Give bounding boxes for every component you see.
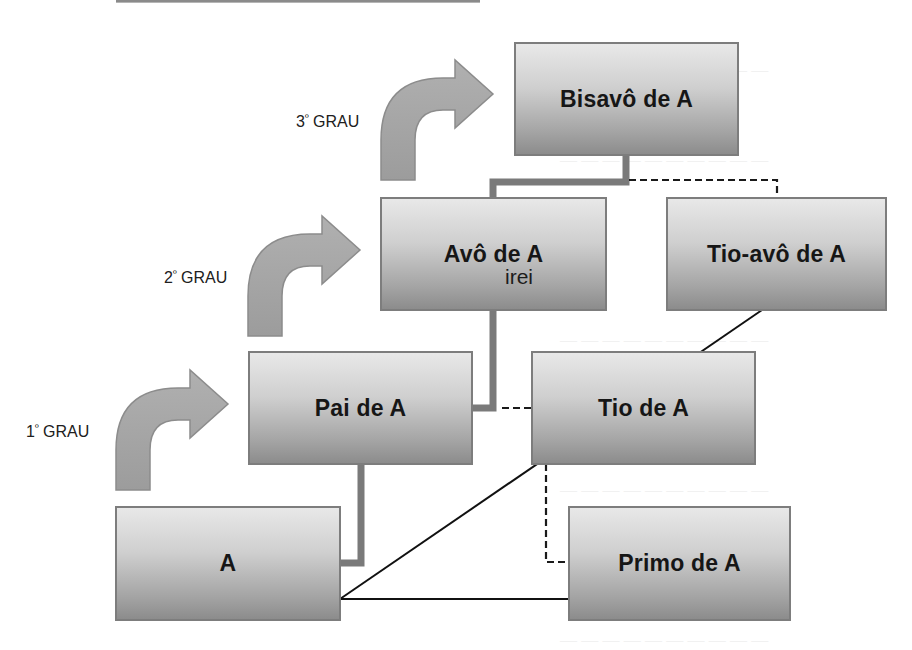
degree-number: 2 <box>164 269 173 286</box>
degree-word: GRAU <box>43 423 89 440</box>
node-pai: Pai de A <box>248 351 473 465</box>
node-label: Pai de A <box>315 395 407 422</box>
degree-ordinal: º <box>305 112 309 123</box>
degree-word: GRAU <box>313 113 359 130</box>
node-a: A <box>115 506 341 621</box>
arrow-2-grau-icon <box>248 216 360 336</box>
degree-ordinal: º <box>173 268 177 279</box>
overlay-text: irei <box>505 265 533 289</box>
node-tio: Tio de A <box>531 351 756 465</box>
degree-label-1: 1º GRAU <box>26 422 89 441</box>
node-label: Bisavô de A <box>560 86 693 113</box>
degree-word: GRAU <box>181 269 227 286</box>
node-avo: Avô de A irei <box>380 197 607 311</box>
degree-number: 3 <box>296 113 305 130</box>
node-label: Avô de A <box>444 241 544 268</box>
node-label: A <box>220 550 237 577</box>
connector-pai-a <box>340 464 361 563</box>
degree-label-2: 2º GRAU <box>164 268 227 287</box>
degree-label-3: 3º GRAU <box>296 112 359 131</box>
arrow-3-grau-icon <box>381 60 493 180</box>
degree-number: 1 <box>26 423 35 440</box>
node-primo: Primo de A <box>568 506 791 621</box>
connector-tio-primo <box>546 464 568 562</box>
node-tio-avo: Tio-avô de A <box>666 197 887 311</box>
node-label: Primo de A <box>618 550 741 577</box>
connector-bisavo-tioavo <box>629 180 777 197</box>
connector-avo-pai <box>472 310 493 408</box>
node-label: Tio de A <box>598 395 689 422</box>
connector-bisavo-avo <box>493 155 626 197</box>
arrow-1-grau-icon <box>116 370 228 490</box>
node-label: Tio-avô de A <box>707 241 846 268</box>
degree-ordinal: º <box>35 422 39 433</box>
node-bisavo: Bisavô de A <box>514 42 739 156</box>
